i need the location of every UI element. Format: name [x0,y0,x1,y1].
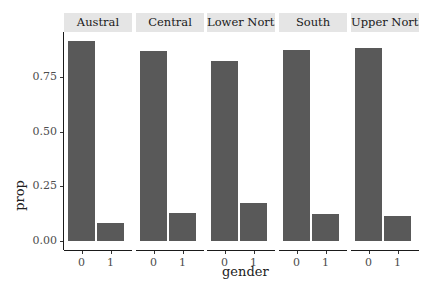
y-tick-mark [60,77,63,78]
x-tick-mark [154,251,155,254]
bar-upper-north-gender-0 [355,48,382,241]
x-tick-mark [254,251,255,254]
x-tick-label: 1 [318,256,334,269]
facet-strip-upper-north: Upper North [351,13,419,32]
x-axis-line [64,250,132,251]
x-axis-line [351,250,419,251]
bar-lower-north-gender-0 [211,61,238,241]
facet-strip-lower-north: Lower North [207,13,275,32]
y-tick-label: 0.00 [17,234,57,247]
bar-central-gender-0 [140,51,167,241]
x-tick-label: 0 [146,256,162,269]
bar-upper-north-gender-1 [384,216,411,241]
x-tick-mark [398,251,399,254]
facet-strip-austral: Austral [64,13,132,32]
bar-austral-gender-1 [97,223,124,241]
y-tick-label: 0.75 [17,70,57,83]
bar-lower-north-gender-1 [240,203,267,241]
y-tick-mark [60,132,63,133]
x-tick-label: 1 [175,256,191,269]
y-tick-label: 0.50 [17,125,57,138]
y-tick-mark [60,186,63,187]
x-tick-mark [111,251,112,254]
y-axis-line [63,32,64,250]
bar-central-gender-1 [169,213,196,241]
x-tick-mark [183,251,184,254]
x-tick-mark [225,251,226,254]
x-axis-line [207,250,275,251]
bar-south-gender-0 [283,50,310,241]
x-tick-mark [82,251,83,254]
bar-austral-gender-0 [68,41,95,241]
x-tick-mark [369,251,370,254]
bar-south-gender-1 [312,214,339,241]
x-tick-label: 1 [390,256,406,269]
x-axis-line [136,250,204,251]
x-tick-mark [297,251,298,254]
y-tick-mark [60,241,63,242]
facet-strip-south: South [279,13,347,32]
x-tick-mark [326,251,327,254]
x-tick-label: 1 [103,256,119,269]
x-axis-label: gender [222,264,269,279]
y-axis-label: prop [12,180,27,211]
x-tick-label: 0 [74,256,90,269]
x-tick-label: 0 [289,256,305,269]
x-axis-line [279,250,347,251]
x-tick-label: 0 [361,256,377,269]
facet-strip-central: Central [136,13,204,32]
